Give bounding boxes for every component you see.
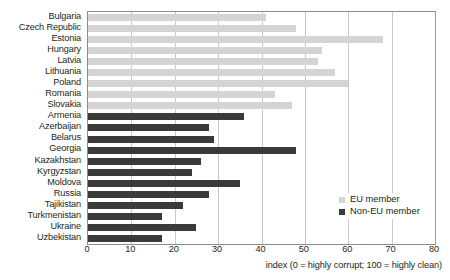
bar (88, 91, 275, 98)
bar (88, 147, 296, 154)
category-label: Belarus (0, 133, 84, 144)
category-label: Kazakhstan (0, 155, 84, 166)
bar (88, 47, 322, 54)
x-tick-label: 20 (169, 245, 179, 254)
bar (88, 80, 348, 87)
category-label: Estonia (0, 33, 84, 44)
x-tick-label: 30 (212, 245, 222, 254)
bar-row (88, 23, 435, 34)
category-label: Slovakia (0, 99, 84, 110)
category-label: Uzbekistan (0, 232, 84, 243)
bar (88, 180, 240, 187)
bar-row (88, 178, 435, 189)
x-tick-label: 0 (84, 245, 89, 254)
category-label: Lithuania (0, 66, 84, 77)
bar-row (88, 45, 435, 56)
chart-legend: EU memberNon-EU member (336, 193, 422, 219)
bar (88, 102, 292, 109)
category-label: Tajikistan (0, 199, 84, 210)
x-tick-label: 50 (299, 245, 309, 254)
x-tick-label: 10 (125, 245, 135, 254)
category-label: Hungary (0, 44, 84, 55)
category-label: Romania (0, 88, 84, 99)
category-label: Moldova (0, 177, 84, 188)
bar (88, 113, 244, 120)
bar-row (88, 67, 435, 78)
category-label: Armenia (0, 110, 84, 121)
category-label: Poland (0, 77, 84, 88)
bar-row (88, 134, 435, 145)
legend-label: Non-EU member (350, 207, 420, 216)
bar (88, 158, 201, 165)
bar (88, 58, 318, 65)
bar (88, 202, 183, 209)
corruption-index-bar-chart: BulgariaCzech RepublicEstoniaHungaryLatv… (0, 0, 450, 280)
legend-item: EU member (339, 195, 420, 204)
bar-row (88, 222, 435, 233)
bar (88, 191, 209, 198)
bar (88, 213, 162, 220)
bar-row (88, 156, 435, 167)
bar (88, 69, 335, 76)
x-tick-label: 60 (342, 245, 352, 254)
bar (88, 25, 296, 32)
category-label: Azerbaijan (0, 121, 84, 132)
category-axis-labels: BulgariaCzech RepublicEstoniaHungaryLatv… (0, 11, 84, 243)
bar-row (88, 12, 435, 23)
legend-item: Non-EU member (339, 207, 420, 216)
bar-row (88, 145, 435, 156)
category-label: Latvia (0, 55, 84, 66)
bar-row (88, 167, 435, 178)
bar (88, 124, 209, 131)
bar-row (88, 100, 435, 111)
bar (88, 36, 383, 43)
category-label: Russia (0, 188, 84, 199)
x-axis-tick-labels: 01020304050607080 (87, 245, 435, 259)
bar (88, 14, 266, 21)
bar-row (88, 233, 435, 244)
bar-row (88, 122, 435, 133)
bar-row (88, 111, 435, 122)
category-label: Kyrgyzstan (0, 166, 84, 177)
category-label: Bulgaria (0, 11, 84, 22)
x-tick-label: 70 (386, 245, 396, 254)
category-label: Georgia (0, 144, 84, 155)
category-label: Czech Republic (0, 22, 84, 33)
bar-row (88, 89, 435, 100)
bar (88, 235, 162, 242)
category-label: Turkmenistan (0, 210, 84, 221)
bar (88, 169, 192, 176)
category-label: Ukraine (0, 221, 84, 232)
bar-row (88, 56, 435, 67)
x-tick-label: 40 (255, 245, 265, 254)
bar-row (88, 78, 435, 89)
legend-label: EU member (350, 195, 400, 204)
bar (88, 136, 214, 143)
x-tick-label: 80 (429, 245, 439, 254)
x-axis-title: index (0 = highly corrupt; 100 = highly … (0, 261, 442, 270)
legend-swatch-icon (339, 209, 345, 215)
bar-row (88, 34, 435, 45)
legend-swatch-icon (339, 197, 345, 203)
bar (88, 224, 196, 231)
